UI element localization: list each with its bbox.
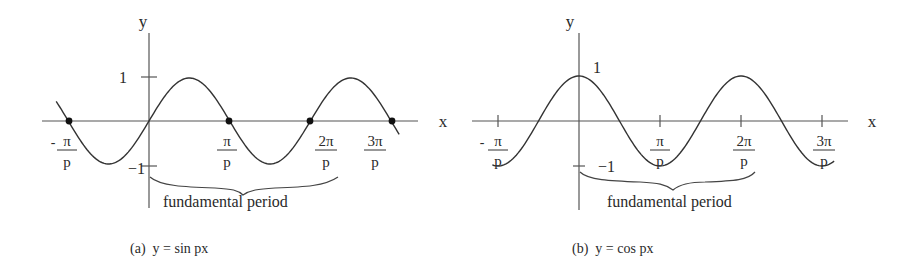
svg-text:p: p (820, 153, 828, 169)
svg-text:p: p (371, 154, 379, 170)
svg-text:3π: 3π (816, 133, 832, 149)
x-axis-label: x (439, 112, 448, 131)
svg-text:p: p (322, 154, 330, 170)
zero-point-marker (389, 118, 396, 125)
svg-text:π: π (656, 133, 664, 149)
y-tick-label-neg1: −1 (128, 160, 145, 177)
x-tick-label-3pi-over-p: 3π p (364, 133, 386, 170)
svg-text:π: π (63, 133, 71, 149)
y-tick-label-1: 1 (119, 69, 127, 86)
y-tick-label-neg1: −1 (598, 158, 615, 175)
svg-text:p: p (656, 153, 664, 169)
caption-b: (b) y = cos px (572, 241, 653, 257)
svg-text:2π: 2π (318, 133, 334, 149)
svg-text:π: π (494, 133, 502, 149)
y-axis-label: y (139, 12, 148, 31)
x-tick-label-2pi-over-p: 2π p (315, 133, 337, 170)
svg-text:p: p (63, 154, 71, 170)
x-tick-label-neg-pi-over-p: - π p (480, 133, 508, 169)
svg-text:p: p (494, 153, 502, 169)
x-axis-label: x (868, 112, 877, 131)
x-tick-label-pi-over-p: π p (217, 133, 237, 170)
svg-text:p: p (223, 154, 231, 170)
caption-a: (a) y = sin px (130, 241, 208, 257)
x-tick-label-neg-pi-over-p: - π p (51, 133, 77, 170)
panel-a-sine-graph: y x 1 −1 - π p π p 2π p 3π (42, 12, 448, 257)
svg-text:-: - (51, 135, 56, 150)
svg-text:-: - (480, 135, 485, 150)
zero-point-marker (226, 118, 233, 125)
svg-text:π: π (223, 133, 231, 149)
y-tick-label-1: 1 (593, 59, 601, 76)
x-tick-label-2pi-over-p: 2π p (733, 133, 755, 169)
figure: y x 1 −1 - π p π p 2π p 3π (0, 0, 914, 277)
zero-point-marker (66, 118, 73, 125)
svg-text:3π: 3π (367, 133, 383, 149)
zero-point-marker (307, 118, 314, 125)
svg-text:2π: 2π (736, 133, 752, 149)
fundamental-period-label: fundamental period (607, 193, 732, 211)
svg-text:p: p (740, 153, 748, 169)
panel-b-cosine-graph: y x 1 −1 - π p π p 2π p 3π p fundamental… (472, 12, 877, 257)
y-axis-label: y (566, 12, 575, 31)
fundamental-period-label: fundamental period (163, 193, 288, 211)
